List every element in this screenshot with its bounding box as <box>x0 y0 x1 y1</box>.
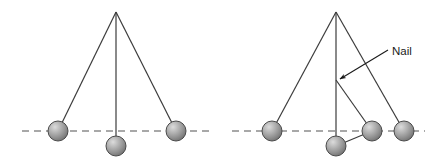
right-panel-bob-bottom <box>326 136 346 156</box>
right-panel-bob-right <box>394 121 414 141</box>
right-panel: Nail <box>232 12 425 156</box>
left-panel <box>22 12 212 156</box>
nail-label: Nail <box>392 45 412 57</box>
figure-canvas: Nail <box>0 0 441 166</box>
nail-leader-arrow-icon <box>340 50 388 79</box>
left-panel-bob-right <box>166 121 186 141</box>
right-panel-string-right-swing <box>336 12 404 131</box>
right-panel-bob-left <box>262 121 282 141</box>
right-panel-string-left-swing <box>272 12 336 131</box>
left-panel-string-right-swing <box>116 12 176 131</box>
left-panel-bob-bottom <box>106 136 126 156</box>
left-panel-bob-left <box>48 121 68 141</box>
right-panel-bob-nail-arc <box>362 121 382 141</box>
pendulum-figure: Nail <box>0 0 441 166</box>
left-panel-string-left-swing <box>58 12 116 131</box>
